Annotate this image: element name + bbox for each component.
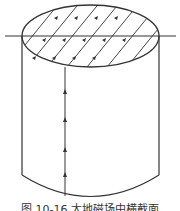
- hatch-arrows: [32, 16, 126, 60]
- cylinder-bottom-arc: [22, 175, 159, 197]
- hatch-lines: [0, 0, 180, 100]
- cylinder-diagram: [0, 0, 180, 211]
- figure-caption: 图 10-16 大地磁场中横截面: [10, 203, 170, 211]
